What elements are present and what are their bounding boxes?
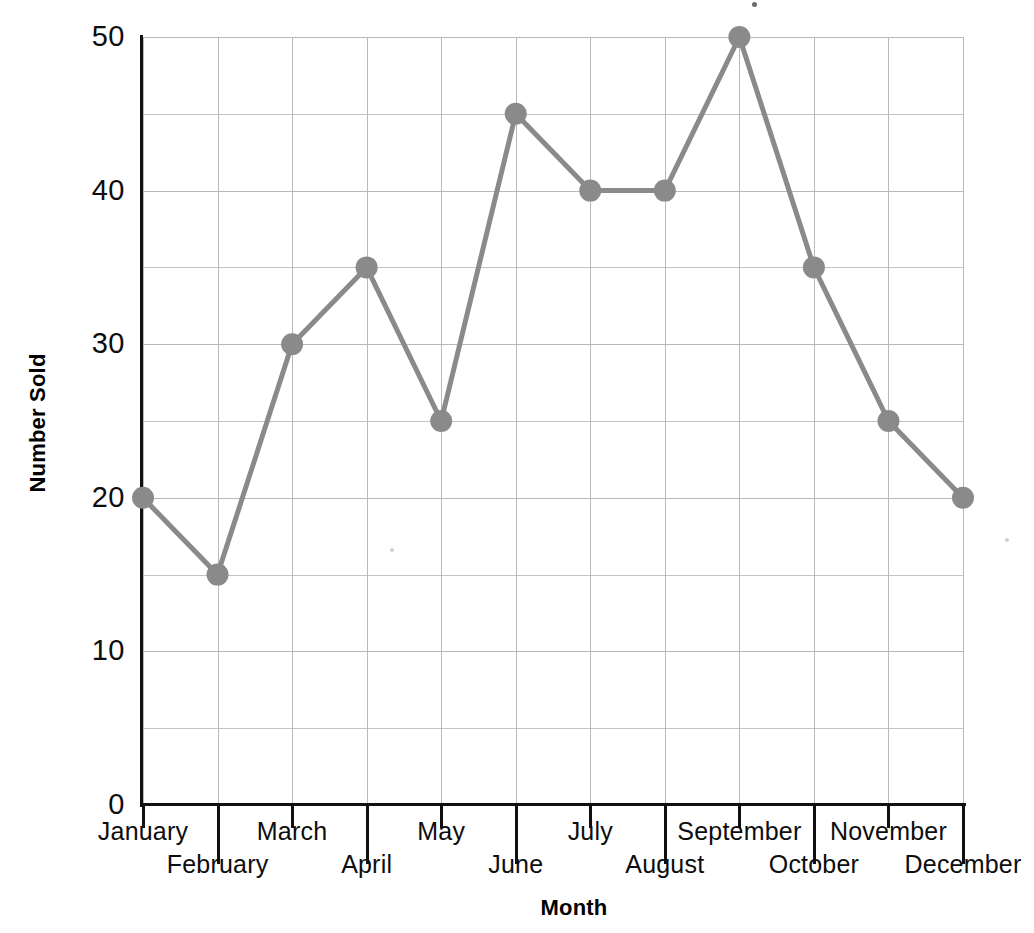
data-point-marker	[952, 487, 974, 509]
data-point-marker	[877, 410, 899, 432]
data-point-marker	[356, 256, 378, 278]
data-point-marker	[430, 410, 452, 432]
data-point-marker	[654, 180, 676, 202]
data-point-marker	[207, 564, 229, 586]
data-point-marker	[803, 256, 825, 278]
data-point-marker	[579, 180, 601, 202]
data-point-marker	[505, 103, 527, 125]
scan-artifact	[390, 548, 394, 552]
line-chart: 01020304050 Number Sold JanuaryFebruaryM…	[0, 0, 1034, 933]
scan-artifact	[1005, 538, 1009, 542]
data-point-marker	[281, 333, 303, 355]
data-point-marker	[132, 487, 154, 509]
scan-artifact	[752, 2, 757, 7]
series-line	[143, 37, 963, 575]
data-point-marker	[728, 26, 750, 48]
series-markers	[132, 26, 974, 586]
data-series	[0, 0, 1034, 933]
